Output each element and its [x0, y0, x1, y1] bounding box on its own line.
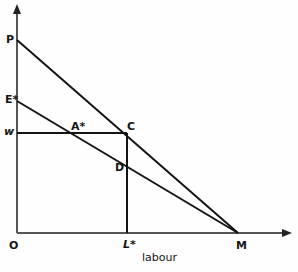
diagram-canvas [0, 0, 298, 272]
label-wage: w [4, 126, 14, 137]
label-l-asterisk: * [130, 238, 136, 251]
label-e-asterisk: * [13, 93, 19, 106]
label-a-asterisk: * [80, 120, 86, 133]
label-e-text: E [5, 93, 13, 106]
label-a-star: A* [71, 121, 85, 132]
x-axis-title: labour [142, 252, 177, 263]
economics-diagram: P E* w O A* C D L* M labour [0, 0, 298, 272]
label-p: P [6, 34, 14, 45]
label-c: C [127, 121, 135, 132]
label-l-text: L [123, 238, 130, 251]
label-l-star: L* [123, 239, 136, 250]
label-e-star: E* [5, 94, 18, 105]
y-axis-arrow-icon [13, 4, 21, 14]
label-m: M [236, 240, 247, 251]
x-axis-arrow-icon [282, 229, 292, 237]
label-a-text: A [71, 120, 80, 133]
label-origin: O [9, 240, 18, 251]
label-d: D [115, 162, 124, 173]
